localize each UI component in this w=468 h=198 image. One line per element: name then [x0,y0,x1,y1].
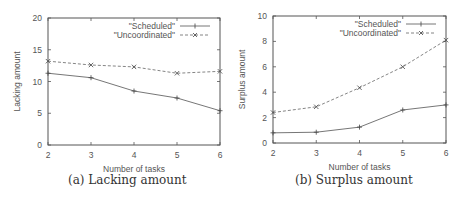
x-tick-label: 2 [271,148,276,158]
y-tick-label: 10 [258,11,268,21]
y-axis-label: Surplus amount [237,49,247,109]
x-tick-label: 4 [132,150,137,160]
x-axis-label: Number of tasks [329,162,391,172]
y-tick-label: 0 [37,140,42,150]
legend-label: "Uncoordinated" [114,30,175,40]
y-tick-label: 2 [262,113,267,123]
y-tick-label: 4 [262,87,267,97]
x-tick-label: 3 [89,150,94,160]
x-tick-label: 5 [175,150,180,160]
x-tick-label: 4 [357,148,362,158]
chart-lacking: 2345605101520Number of tasksLacking amou… [12,13,223,174]
y-tick-label: 5 [37,108,42,118]
y-tick-label: 8 [262,36,267,46]
chart-surplus: 234560246810Number of tasksSurplus amoun… [237,11,449,172]
series-line-uncoordinated [273,40,446,112]
charts-figure: 2345605101520Number of tasksLacking amou… [0,0,468,198]
y-axis-label: Lacking amount [12,51,22,112]
x-tick-label: 2 [46,150,51,160]
x-tick-label: 6 [218,150,223,160]
y-tick-label: 10 [33,77,43,87]
caption-a: (a) Lacking amount [68,173,187,187]
caption-b: (b) Surplus amount [295,173,413,187]
y-tick-label: 20 [33,13,43,23]
y-tick-label: 0 [262,138,267,148]
legend-label: "Uncoordinated" [340,28,401,38]
x-tick-label: 3 [314,148,319,158]
y-tick-label: 15 [33,45,43,55]
x-tick-label: 6 [444,148,449,158]
y-tick-label: 6 [262,62,267,72]
x-tick-label: 5 [400,148,405,158]
